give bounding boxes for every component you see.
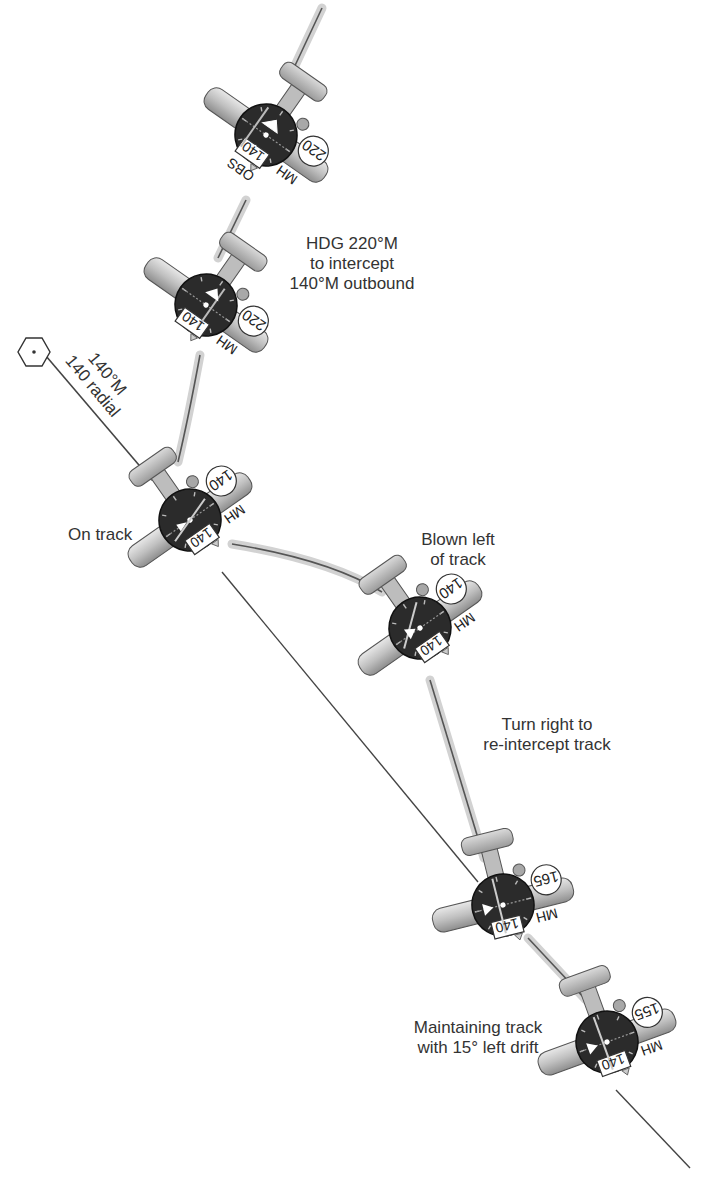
annotation-blown-left: Blown left of track xyxy=(408,530,508,570)
vor-station-icon xyxy=(18,338,50,366)
annotation-intercept-line-3: 140°M outbound xyxy=(282,274,422,294)
annotation-intercept: HDG 220°M to intercept 140°M outbound xyxy=(282,234,422,294)
diagram-canvas: 140°M 140 radial 220 140 OBS MH 220 140 … xyxy=(0,0,707,1178)
annotation-turn-line-2: re-intercept track xyxy=(472,735,622,755)
annotation-on-track: On track xyxy=(68,525,132,545)
vor-tracking-diagram: 140°M 140 radial 220 140 OBS MH 220 140 … xyxy=(0,0,707,1178)
annotation-turn-right: Turn right to re-intercept track xyxy=(472,715,622,755)
annotation-intercept-line-1: HDG 220°M xyxy=(282,234,422,254)
aircraft-1: 220 140 OBS MH xyxy=(178,33,368,218)
desired-course-line-extension xyxy=(616,1090,690,1168)
aircraft-2: 220 140 MH xyxy=(125,203,307,377)
annotation-blown-line-1: Blown left xyxy=(408,530,508,550)
annotation-blown-line-2: of track xyxy=(408,550,508,570)
annotation-turn-line-1: Turn right to xyxy=(472,715,622,735)
annotation-intercept-line-2: to intercept xyxy=(282,254,422,274)
annotation-maintain-line-1: Maintaining track xyxy=(403,1018,553,1038)
annotation-maintaining-track: Maintaining track with 15° left drift xyxy=(403,1018,553,1058)
annotation-maintain-line-2: with 15° left drift xyxy=(403,1038,553,1058)
radial-label-group: 140°M 140 radial xyxy=(61,339,138,421)
